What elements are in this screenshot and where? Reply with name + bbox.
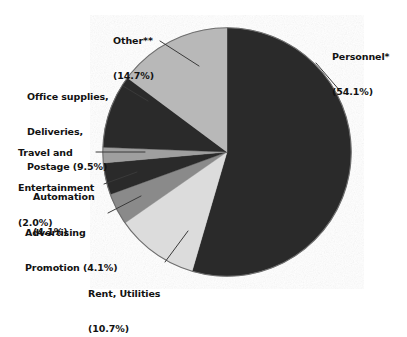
callout-rent-line1: Rent, Utilities [88,288,160,300]
callout-personnel-line1: Personnel* [332,51,389,63]
callout-other-line1: Other** [113,35,154,47]
callout-advertising-line1: Advertising [25,227,117,239]
callout-personnel: Personnel* (54.1%) [332,28,389,121]
callout-other-line2: (14.7%) [113,70,154,82]
callout-office-supplies-line1: Office supplies, [27,91,109,103]
callout-travel-line1: Travel and [18,147,94,159]
callout-other: Other** (14.7%) [113,12,154,105]
callout-personnel-line2: (54.1%) [332,86,389,98]
callout-rent-line2: (10.7%) [88,323,160,335]
callout-rent-utilities: Rent, Utilities (10.7%) [88,265,160,337]
callout-automation-line1: Automation [33,191,95,203]
